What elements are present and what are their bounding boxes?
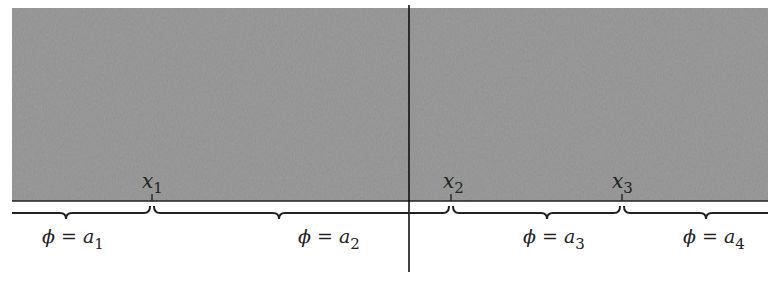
boundary-diagram: x1 x2 x3 ϕ = a1 ϕ = a2 ϕ = a3 ϕ = a4 xyxy=(0,0,778,285)
interval-braces xyxy=(12,206,768,219)
svg-text:ϕ = a1: ϕ = a1 xyxy=(42,225,104,253)
svg-text:ϕ = a3: ϕ = a3 xyxy=(523,225,585,253)
svg-text:ϕ = a4: ϕ = a4 xyxy=(683,225,745,253)
shaded-region xyxy=(12,8,768,201)
brace-3 xyxy=(453,206,620,219)
brace-2 xyxy=(154,206,449,219)
svg-text:ϕ = a2: ϕ = a2 xyxy=(298,225,360,253)
brace-4 xyxy=(624,206,768,219)
interval-labels: ϕ = a1 ϕ = a2 ϕ = a3 ϕ = a4 xyxy=(42,225,745,253)
brace-1 xyxy=(12,206,150,219)
